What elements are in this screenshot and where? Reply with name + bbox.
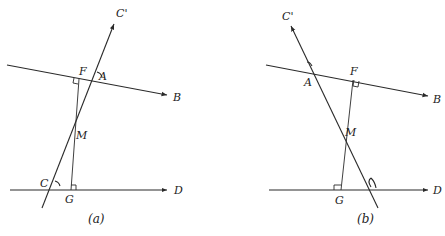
label-d: D [432, 184, 442, 197]
label-m: M [75, 129, 88, 142]
panel-a: C' F A B M C G D (a) [7, 7, 183, 226]
label-f: F [349, 65, 358, 78]
label-b: B [432, 93, 441, 106]
right-angle-f [73, 78, 78, 84]
transversal-cc-prime [291, 26, 378, 208]
right-angle-f [353, 80, 359, 87]
label-a: A [98, 70, 107, 83]
label-c-prime: C' [116, 7, 127, 20]
label-g: G [65, 193, 74, 206]
label-d: D [173, 184, 183, 197]
caption-a: (a) [88, 212, 105, 226]
label-g: G [335, 194, 344, 207]
panel-b: C' A F B M G D (b) [266, 10, 442, 226]
angle-arc-c [369, 178, 376, 188]
label-c: C [40, 177, 49, 190]
label-b: B [172, 91, 181, 104]
label-a: A [303, 76, 312, 89]
caption-b: (b) [357, 212, 374, 226]
right-angle-g [334, 185, 341, 190]
transversal-cc-prime [42, 24, 114, 208]
line-ab [7, 65, 167, 95]
label-c-prime: C' [282, 10, 293, 23]
angle-arc-c [55, 181, 60, 186]
label-m: M [344, 126, 357, 139]
line-ab [266, 65, 428, 96]
geometry-figure: C' F A B M C G D (a) C' A F B M G D (b) [0, 0, 445, 236]
label-f: F [78, 65, 87, 78]
